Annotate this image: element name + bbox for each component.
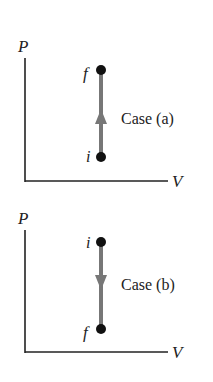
bottom-point-label: i bbox=[86, 148, 90, 165]
x-axis-label: V bbox=[172, 172, 185, 191]
y-axis-label: P bbox=[17, 37, 28, 56]
pv-diagrams: P V f i Case (a) P V i f Case (b) bbox=[0, 0, 213, 382]
case-label: Case (a) bbox=[121, 110, 174, 128]
top-point-label: i bbox=[86, 234, 90, 251]
diagram-case-b: P V i f Case (b) bbox=[17, 209, 185, 362]
point-bottom bbox=[96, 152, 106, 162]
arrow-up-icon bbox=[95, 109, 107, 124]
x-axis-label: V bbox=[172, 343, 185, 362]
case-label: Case (b) bbox=[121, 276, 175, 294]
y-axis-label: P bbox=[17, 209, 28, 228]
point-top bbox=[96, 237, 106, 247]
bottom-point-label: f bbox=[83, 323, 90, 342]
point-bottom bbox=[96, 324, 106, 334]
arrow-down-icon bbox=[95, 275, 107, 290]
point-top bbox=[96, 65, 106, 75]
top-point-label: f bbox=[83, 64, 90, 83]
diagram-case-a: P V f i Case (a) bbox=[17, 37, 185, 191]
